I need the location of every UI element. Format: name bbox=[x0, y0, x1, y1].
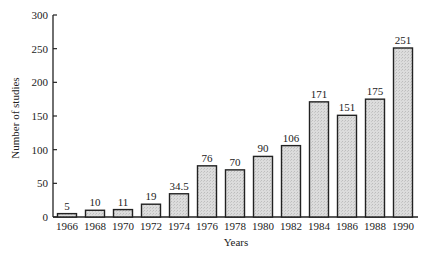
y-tick-label: 200 bbox=[32, 76, 49, 88]
bar-value-label: 106 bbox=[283, 132, 300, 144]
x-axis: 1966196819701972197419761978198019821984… bbox=[53, 217, 418, 232]
bar-1984 bbox=[310, 102, 329, 217]
y-axis: 050100150200250300 bbox=[32, 9, 58, 223]
x-tick-label: 1976 bbox=[196, 220, 219, 232]
y-tick-label: 250 bbox=[32, 43, 49, 55]
bar-value-label: 19 bbox=[146, 190, 158, 202]
bar-value-label: 151 bbox=[339, 101, 356, 113]
bar-1968 bbox=[86, 210, 105, 217]
bar-value-label: 10 bbox=[90, 196, 102, 208]
x-tick-label: 1968 bbox=[84, 220, 107, 232]
bar-value-label: 90 bbox=[258, 142, 270, 154]
bar-1966 bbox=[58, 214, 77, 217]
bar-1978 bbox=[226, 170, 245, 217]
bar-1982 bbox=[282, 146, 301, 217]
x-tick-label: 1986 bbox=[336, 220, 359, 232]
bar-1970 bbox=[114, 210, 133, 217]
x-tick-label: 1980 bbox=[252, 220, 275, 232]
x-tick-label: 1982 bbox=[280, 220, 302, 232]
y-tick-label: 150 bbox=[32, 110, 49, 122]
bar-1976 bbox=[198, 166, 217, 217]
y-tick-label: 0 bbox=[43, 211, 49, 223]
bar-value-label: 76 bbox=[202, 152, 214, 164]
y-tick-label: 50 bbox=[37, 177, 49, 189]
y-tick-label: 300 bbox=[32, 9, 49, 21]
bar-1980 bbox=[254, 156, 273, 217]
x-tick-label: 1974 bbox=[168, 220, 191, 232]
bars: 510111934.5767090106171151175251 bbox=[58, 34, 413, 217]
bar-value-label: 175 bbox=[367, 85, 384, 97]
x-tick-label: 1988 bbox=[364, 220, 387, 232]
bar-chart: 050100150200250300 196619681970197219741… bbox=[0, 0, 428, 258]
bar-value-label: 34.5 bbox=[169, 180, 189, 192]
x-tick-label: 1990 bbox=[392, 220, 415, 232]
x-axis-title: Years bbox=[224, 236, 249, 248]
bar-1986 bbox=[338, 115, 357, 217]
bar-value-label: 251 bbox=[395, 34, 412, 46]
x-tick-label: 1972 bbox=[140, 220, 162, 232]
bar-1990 bbox=[394, 48, 413, 217]
x-tick-label: 1966 bbox=[56, 220, 79, 232]
bar-1988 bbox=[366, 99, 385, 217]
x-tick-label: 1984 bbox=[308, 220, 331, 232]
bar-value-label: 11 bbox=[118, 196, 129, 208]
bar-1974 bbox=[170, 194, 189, 217]
x-tick-label: 1970 bbox=[112, 220, 135, 232]
bar-1972 bbox=[142, 204, 161, 217]
bar-value-label: 70 bbox=[230, 156, 242, 168]
y-tick-label: 100 bbox=[32, 144, 49, 156]
bar-value-label: 5 bbox=[64, 200, 70, 212]
y-axis-title: Number of studies bbox=[9, 77, 21, 158]
bar-value-label: 171 bbox=[311, 88, 328, 100]
x-tick-label: 1978 bbox=[224, 220, 247, 232]
